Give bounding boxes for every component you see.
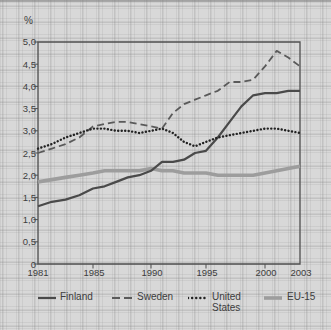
legend-label-eu15: EU-15 <box>287 291 315 302</box>
series-line-eu15 <box>38 166 300 182</box>
line-chart <box>0 2 331 330</box>
legend-label-united-states: United States <box>212 291 250 313</box>
eu15-line-swatch <box>264 294 282 302</box>
legend-label-finland: Finland <box>60 291 93 302</box>
united-states-line-swatch <box>188 294 208 302</box>
series-line-finland <box>38 91 300 207</box>
series-line-sweden <box>38 51 300 153</box>
legend-label-sweden: Sweden <box>137 291 173 302</box>
series-line-united-states <box>38 129 300 149</box>
sweden-line-swatch <box>112 294 132 302</box>
plot-frame <box>38 42 300 264</box>
figure-canvas: % 5,0 4,5 4,0 3,5 3,0 2,5 2,0 1,5 1,0 0,… <box>0 0 331 330</box>
finland-line-swatch <box>38 294 56 302</box>
